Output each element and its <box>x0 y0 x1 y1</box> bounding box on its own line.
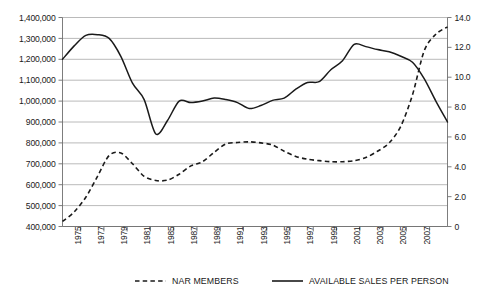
x-axis-tick-label: 2003 <box>375 226 385 245</box>
y-axis-left-tick-label: 1,200,000 <box>19 54 56 64</box>
chart-legend: NAR MEMBERSAVAILABLE SALES PER PERSON <box>135 276 449 286</box>
y-axis-right-tick-label: 10.0 <box>455 72 471 82</box>
x-axis-tick-label: 1979 <box>119 226 129 245</box>
x-axis-labels: 1975197719791981198519871989199119931995… <box>73 226 432 245</box>
y-axis-left-tick-label: 1,300,000 <box>19 34 56 44</box>
y-axis-right-tick-label: 2.0 <box>455 192 467 202</box>
legend-label-2: AVAILABLE SALES PER PERSON <box>309 276 449 286</box>
dual-axis-line-chart: 400,000500,000600,000700,000800,000900,0… <box>0 0 496 301</box>
data-series <box>63 27 448 222</box>
y-axis-left-tick-label: 400,000 <box>26 222 56 232</box>
y-axis-right-tick-label: 8.0 <box>455 102 467 112</box>
y-axis-left-labels: 400,000500,000600,000700,000800,000900,0… <box>19 13 62 232</box>
x-axis-tick-label: 2001 <box>352 226 362 245</box>
x-axis-tick-label: 2005 <box>398 226 408 245</box>
x-axis-tick-label: 1995 <box>282 226 292 245</box>
y-axis-right-tick-label: 6.0 <box>455 132 467 142</box>
x-axis-tick-label: 1993 <box>259 226 269 245</box>
y-axis-left-tick-label: 700,000 <box>26 159 56 169</box>
y-axis-right-tick-label: 12.0 <box>455 42 471 52</box>
x-axis-tick-label: 1975 <box>73 226 83 245</box>
y-axis-left-tick-label: 500,000 <box>26 201 56 211</box>
gridlines <box>63 18 448 227</box>
series-line-2 <box>63 34 448 134</box>
x-axis-tick-label: 1991 <box>235 226 245 245</box>
y-axis-right-labels: 02.04.06.08.010.012.014.0 <box>448 13 471 232</box>
y-axis-left-tick-label: 800,000 <box>26 138 56 148</box>
y-axis-right-tick-label: 14.0 <box>455 13 471 23</box>
x-axis-tick-label: 1989 <box>212 226 222 245</box>
y-axis-left-tick-label: 1,100,000 <box>19 75 56 85</box>
x-axis-tick-label: 1999 <box>329 226 339 245</box>
y-axis-left-tick-label: 1,000,000 <box>19 96 56 106</box>
x-axis-tick-label: 2007 <box>422 226 432 245</box>
chart-container: 400,000500,000600,000700,000800,000900,0… <box>0 0 496 301</box>
y-axis-left-tick-label: 600,000 <box>26 180 56 190</box>
legend-label-1: NAR MEMBERS <box>172 276 239 286</box>
x-axis-tick-label: 1981 <box>142 226 152 245</box>
y-axis-left-tick-label: 1,400,000 <box>19 13 56 23</box>
x-axis-tick-label: 1987 <box>189 226 199 245</box>
x-axis-tick-label: 1985 <box>166 226 176 245</box>
y-axis-right-tick-label: 0 <box>455 222 460 232</box>
x-axis-tick-label: 1997 <box>305 226 315 245</box>
y-axis-right-tick-label: 4.0 <box>455 162 467 172</box>
y-axis-left-tick-label: 900,000 <box>26 117 56 127</box>
x-axis-tick-label: 1977 <box>96 226 106 245</box>
